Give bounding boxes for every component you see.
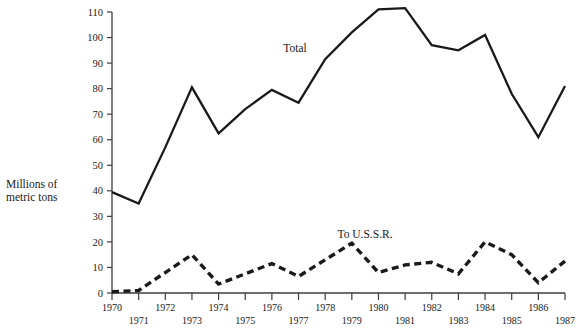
series-annotations: TotalTo U.S.S.R.	[283, 42, 392, 240]
y-tick-label: 0	[98, 288, 103, 299]
y-tick-label: 20	[93, 237, 104, 248]
series-label-total: Total	[283, 42, 306, 54]
y-tick-label: 40	[93, 185, 104, 196]
x-tick-label: 1986	[528, 302, 548, 313]
y-tick-label: 50	[93, 160, 104, 171]
series-line-total	[112, 8, 565, 203]
x-tick-label: 1987	[555, 315, 575, 326]
y-tick-label: 60	[93, 134, 104, 145]
x-tick-label: 1981	[395, 315, 415, 326]
y-tick-label: 10	[93, 262, 104, 273]
y-tick-label: 100	[87, 32, 103, 43]
line-chart-plot: 0102030405060708090100110 19701971197219…	[0, 0, 579, 336]
x-tick-label: 1983	[448, 315, 468, 326]
x-tick-label: 1977	[289, 315, 309, 326]
x-tick-label: 1982	[422, 302, 442, 313]
x-tick-label: 1970	[102, 302, 122, 313]
x-tick-label: 1971	[129, 315, 149, 326]
y-tick-label: 90	[93, 58, 104, 69]
y-tick-label: 30	[93, 211, 104, 222]
x-tick-label: 1980	[368, 302, 388, 313]
x-tick-label: 1984	[475, 302, 495, 313]
x-tick-label: 1985	[502, 315, 522, 326]
x-tick-label: 1976	[262, 302, 282, 313]
series-label-to-u-s-s-r: To U.S.S.R.	[337, 228, 392, 240]
x-tick-label: 1978	[315, 302, 335, 313]
chart-container: Millions of metric tons 0102030405060708…	[0, 0, 579, 336]
y-tick-label: 80	[93, 83, 104, 94]
y-tick-label: 70	[93, 109, 104, 120]
x-tick-label: 1975	[235, 315, 255, 326]
x-tick-label: 1974	[209, 302, 229, 313]
series-line-to-u-s-s-r	[112, 242, 565, 292]
data-series-group	[112, 8, 565, 292]
x-tick-label: 1973	[182, 315, 202, 326]
y-tick-label: 110	[88, 7, 103, 18]
x-tick-label: 1972	[155, 302, 175, 313]
y-axis: 0102030405060708090100110	[87, 7, 112, 299]
x-axis: 1970197119721973197419751976197719781979…	[102, 293, 575, 326]
x-tick-label: 1979	[342, 315, 362, 326]
